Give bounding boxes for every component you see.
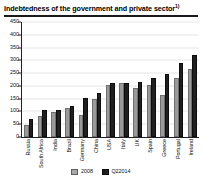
x-axis-label-cell: Italy xyxy=(117,139,131,169)
x-axis-tick-label: USA xyxy=(108,139,113,150)
x-axis-label-cell: China xyxy=(90,139,104,169)
x-axis-label-cell: UK xyxy=(131,139,145,169)
x-axis-tick-label: India xyxy=(53,139,58,151)
legend-swatch-q22014 xyxy=(102,169,109,175)
x-axis-tick-label: Germany xyxy=(81,139,86,161)
bar xyxy=(138,82,143,137)
x-axis-tick-label: Russia xyxy=(26,139,31,155)
bar-group xyxy=(76,22,90,137)
bar-group xyxy=(117,22,131,137)
legend-item[interactable]: 2008 xyxy=(71,169,93,175)
bar-group xyxy=(158,22,172,137)
x-axis-line xyxy=(21,137,199,138)
bar-group xyxy=(144,22,158,137)
bar-group xyxy=(63,22,77,137)
x-axis-label-cell: Germany xyxy=(76,139,90,169)
x-axis-tick-label: Greece xyxy=(162,139,167,157)
x-axis-tick-label: UK xyxy=(135,139,140,147)
chart-figure: Indebtedness of the government and priva… xyxy=(0,0,202,190)
x-axis-label-cell: Portugal xyxy=(172,139,186,169)
legend-swatch-2008 xyxy=(71,169,78,175)
x-axis-tick-label: Italy xyxy=(121,139,126,149)
x-axis-label-cell: Brazil xyxy=(63,139,77,169)
chart-header: Indebtedness of the government and priva… xyxy=(4,4,198,17)
title-divider xyxy=(4,15,198,17)
bar xyxy=(151,78,156,137)
bar-group xyxy=(172,22,186,137)
bar xyxy=(42,110,47,137)
x-axis-label-cell: Spain xyxy=(144,139,158,169)
bar xyxy=(29,119,34,137)
x-axis-tick-label: South Africa xyxy=(40,139,45,168)
bar xyxy=(110,83,115,137)
bar xyxy=(83,98,88,137)
x-axis-label-cell: Ireland xyxy=(185,139,199,169)
x-axis-label-cell: Russia xyxy=(22,139,36,169)
page-title: Indebtedness of the government and priva… xyxy=(4,4,198,13)
x-axis-tick-label: Ireland xyxy=(189,139,194,155)
bar xyxy=(56,110,61,137)
bar-group xyxy=(185,22,199,137)
x-axis-tick-label: Spain xyxy=(149,139,154,153)
bar-group xyxy=(36,22,50,137)
x-axis-labels: RussiaSouth AfricaIndiaBrazilGermanyChin… xyxy=(22,139,199,169)
bar xyxy=(192,55,197,137)
x-axis-label-cell: Greece xyxy=(158,139,172,169)
bar-group xyxy=(22,22,36,137)
bar-group xyxy=(49,22,63,137)
bar xyxy=(179,63,184,137)
legend-label: 2008 xyxy=(81,169,93,174)
plot-area: 450400350300250200150100500 xyxy=(0,20,202,146)
x-axis-tick-label: Portugal xyxy=(176,139,181,159)
x-axis-label-cell: South Africa xyxy=(36,139,50,169)
chart-title-text: Indebtedness of the government and priva… xyxy=(4,4,175,13)
legend-item[interactable]: Q22014 xyxy=(102,169,131,175)
bar xyxy=(70,106,75,137)
bar-group xyxy=(90,22,104,137)
bar xyxy=(165,74,170,137)
y-axis-labels: 450400350300250200150100500 xyxy=(0,20,21,146)
bar xyxy=(97,93,102,137)
x-axis-label-cell: India xyxy=(49,139,63,169)
x-axis-tick-label: Brazil xyxy=(67,139,72,152)
title-footnote-marker: 1) xyxy=(175,3,179,9)
x-axis-label-cell: USA xyxy=(104,139,118,169)
bar xyxy=(124,83,129,137)
legend-label: Q22014 xyxy=(111,169,130,174)
bar-group xyxy=(104,22,118,137)
x-axis-tick-label: China xyxy=(94,139,99,153)
chart-legend: 2008Q22014 xyxy=(0,169,202,175)
bars-container xyxy=(22,22,199,137)
bar-group xyxy=(131,22,145,137)
